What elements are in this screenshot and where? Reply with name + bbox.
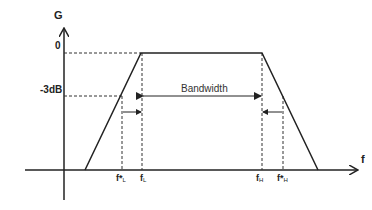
- f-h-label: fH: [256, 174, 263, 183]
- bandwidth-label: Bandwidth: [181, 84, 228, 94]
- bandpass-diagram: [0, 0, 372, 210]
- zero-level-label: 0: [55, 41, 61, 51]
- minus3db-label: -3dB: [40, 85, 62, 95]
- y-axis-label: G: [54, 10, 63, 21]
- f-l-label: fL: [140, 174, 146, 183]
- f-star-l-label: f*L: [116, 174, 126, 183]
- f-star-h-label: f*H: [277, 174, 288, 183]
- x-axis-label: f: [361, 154, 365, 165]
